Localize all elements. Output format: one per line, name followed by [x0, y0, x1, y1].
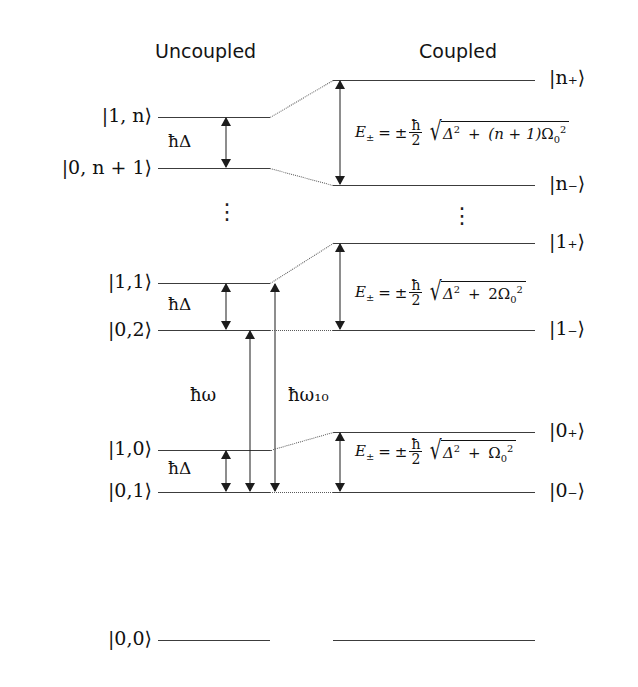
radicand-omega-sub: 0 — [501, 453, 507, 464]
formula-hbar: ħ — [409, 437, 422, 451]
formula-sqrt: √ Δ2 + Ω02 — [425, 440, 516, 464]
radicand-delta-exp: 2 — [454, 284, 460, 295]
radicand-plus: + — [468, 125, 481, 143]
ket-label-uncoupled-00: |0,0⟩ — [22, 627, 152, 649]
connector-02-to-1minus — [270, 330, 333, 331]
splitting-arrow-one-group — [333, 244, 347, 329]
detuning-arrow-n-group — [219, 118, 233, 167]
detuning-label-one-group: ħΔ — [168, 294, 191, 314]
radical-sign: √ — [430, 121, 442, 145]
level-line-uncoupled-01 — [158, 492, 270, 493]
energy-formula-zero-group: E± = ± ħ 2 √ Δ2 + Ω02 — [355, 437, 516, 467]
level-line-coupled-0plus — [333, 432, 535, 433]
transition-arrow-atomic — [268, 284, 282, 491]
formula-lhs: E± — [355, 283, 374, 303]
radicand-coefficient: 2 — [488, 285, 498, 303]
level-line-coupled-nminus — [333, 185, 535, 186]
radicand-omega: Ω — [541, 125, 553, 143]
radicand-coefficient: (n + 1) — [488, 125, 541, 143]
formula-two: 2 — [409, 132, 422, 147]
formula-equals: = — [378, 443, 391, 461]
ket-label-uncoupled-02: |0,2⟩ — [22, 318, 152, 340]
formula-sign: ± — [395, 124, 408, 142]
transition-label-photon: ħω — [190, 384, 216, 405]
ket-label-uncoupled-1n: |1, n⟩ — [22, 104, 152, 126]
detuning-arrow-one-group — [219, 284, 233, 329]
ket-label-uncoupled-11: |1,1⟩ — [22, 270, 152, 292]
radicand-omega-sub: 0 — [510, 294, 516, 305]
radicand-plus: + — [468, 444, 481, 462]
formula-sign: ± — [395, 443, 408, 461]
ket-label-coupled-1minus: |1₋⟩ — [549, 317, 585, 339]
radicand-omega-exp: 2 — [517, 284, 523, 295]
level-line-coupled-1plus — [333, 243, 535, 244]
connector-0n1-to-nminus — [270, 168, 333, 186]
splitting-arrow-n-group — [333, 81, 347, 184]
formula-hbar: ħ — [409, 278, 422, 292]
column-header-uncoupled: Uncoupled — [155, 40, 256, 62]
ket-label-coupled-nminus: |n₋⟩ — [549, 172, 585, 194]
ket-label-coupled-0plus: |0₊⟩ — [549, 419, 585, 441]
formula-fraction: ħ 2 — [409, 118, 422, 148]
formula-two: 2 — [409, 451, 422, 466]
detuning-arrow-zero-group — [219, 451, 233, 491]
detuning-label-zero-group: ħΔ — [168, 458, 191, 478]
formula-lhs: E± — [355, 123, 374, 143]
level-line-coupled-0minus — [333, 492, 535, 493]
radicand-delta-exp: 2 — [454, 443, 460, 454]
radicand-omega-sub: 0 — [554, 134, 560, 145]
level-line-uncoupled-1n — [158, 117, 270, 118]
connector-11-to-1plus — [270, 243, 334, 284]
formula-fraction: ħ 2 — [409, 437, 422, 467]
radicand-delta: Δ — [443, 285, 454, 303]
radicand-delta: Δ — [443, 444, 454, 462]
radicand-omega-exp: 2 — [560, 124, 566, 135]
formula-equals: = — [378, 284, 391, 302]
ket-label-coupled-nplus: |n₊⟩ — [549, 66, 585, 88]
radicand: Δ2 + 2Ω02 — [441, 281, 526, 305]
radical-sign: √ — [430, 440, 442, 464]
column-header-coupled: Coupled — [419, 40, 497, 62]
ket-label-uncoupled-10: |1,0⟩ — [22, 437, 152, 459]
connector-01-to-0minus — [270, 492, 333, 493]
energy-formula-n-group: E± = ± ħ 2 √ Δ2 + (n + 1)Ω02 — [355, 118, 569, 148]
connector-1n-to-nplus — [270, 80, 333, 118]
radical-sign: √ — [430, 281, 442, 305]
level-line-coupled-ground — [333, 640, 535, 641]
detuning-label-n-group: ħΔ — [168, 131, 191, 151]
ket-label-uncoupled-01: |0,1⟩ — [22, 479, 152, 501]
formula-equals: = — [378, 124, 391, 142]
formula-sign: ± — [395, 284, 408, 302]
splitting-arrow-zero-group — [333, 433, 347, 491]
ellipsis-dot: ⋮ — [216, 208, 238, 215]
energy-formula-one-group: E± = ± ħ 2 √ Δ2 + 2Ω02 — [355, 278, 526, 308]
ellipsis-coupled: ⋮ — [451, 212, 473, 219]
transition-label-atomic: ħω₁₀ — [288, 384, 329, 405]
ket-label-coupled-1plus: |1₊⟩ — [549, 230, 585, 252]
formula-fraction: ħ 2 — [409, 278, 422, 308]
radicand: Δ2 + (n + 1)Ω02 — [441, 121, 569, 145]
radicand-plus: + — [468, 285, 481, 303]
radicand-delta-exp: 2 — [454, 124, 460, 135]
radicand-omega-exp: 2 — [507, 443, 513, 454]
formula-sqrt: √ Δ2 + 2Ω02 — [425, 281, 525, 305]
energy-level-diagram: Uncoupled Coupled |1, n⟩ |0, n + 1⟩ |1,1… — [0, 0, 638, 687]
formula-sqrt: √ Δ2 + (n + 1)Ω02 — [425, 121, 569, 145]
level-line-uncoupled-11 — [158, 283, 270, 284]
transition-arrow-photon — [243, 331, 257, 491]
ket-label-uncoupled-0n1: |0, n + 1⟩ — [2, 156, 152, 178]
radicand-omega: Ω — [488, 444, 500, 462]
ellipsis-uncoupled: ⋮ — [216, 208, 238, 215]
ket-label-coupled-0minus: |0₋⟩ — [549, 479, 585, 501]
radicand-delta: Δ — [443, 125, 454, 143]
formula-two: 2 — [409, 292, 422, 307]
formula-hbar: ħ — [409, 118, 422, 132]
formula-lhs: E± — [355, 442, 374, 462]
level-line-uncoupled-00 — [158, 640, 270, 641]
ellipsis-dot: ⋮ — [451, 212, 473, 219]
level-line-coupled-1minus — [333, 330, 535, 331]
level-line-uncoupled-0n1 — [158, 168, 270, 169]
radicand-omega: Ω — [498, 285, 510, 303]
level-line-coupled-nplus — [333, 80, 535, 81]
radicand: Δ2 + Ω02 — [441, 440, 516, 464]
